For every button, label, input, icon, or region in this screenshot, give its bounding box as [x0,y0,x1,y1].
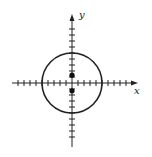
x-axis-label: x [134,86,140,96]
y-axis-label: y [79,10,85,20]
point [69,73,74,78]
y-axis-arrow-icon [70,14,75,21]
coordinate-plane [0,0,152,157]
point [69,88,74,93]
